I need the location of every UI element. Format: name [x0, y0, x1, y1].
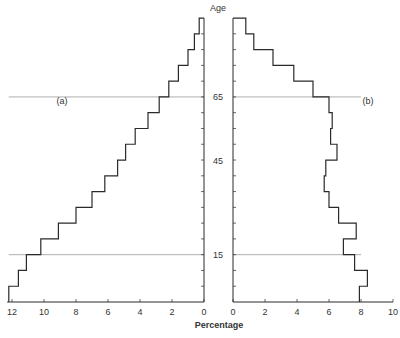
population-pyramid-chart: 121086420 0246810 Age 154565 (a) (b) Per…	[0, 0, 400, 338]
x-tick-label: 0	[201, 307, 206, 317]
age-tick-labels: 154565	[213, 92, 223, 260]
x-tick-label: 8	[358, 307, 363, 317]
series-b-path	[233, 18, 367, 302]
x-tick-label: 2	[262, 307, 267, 317]
panel-a-label: (a)	[57, 96, 68, 106]
x-tick-label: 4	[137, 307, 142, 317]
x-tick-label: 10	[39, 307, 49, 317]
right-panel-axes: 0246810	[230, 18, 398, 317]
chart-canvas: 121086420 0246810 Age 154565 (a) (b) Per…	[0, 0, 400, 338]
age-tick-label: 65	[213, 92, 223, 102]
left-panel-axes: 121086420	[7, 18, 207, 317]
x-tick-label: 12	[7, 307, 17, 317]
series-b-step-line	[233, 18, 367, 302]
series-a-path	[9, 18, 204, 302]
x-axis-label: Percentage	[195, 320, 244, 330]
reference-lines	[9, 97, 361, 255]
x-tick-label: 10	[388, 307, 398, 317]
age-tick-label: 45	[213, 156, 223, 166]
x-tick-label: 8	[73, 307, 78, 317]
x-tick-label: 2	[169, 307, 174, 317]
x-tick-label: 4	[294, 307, 299, 317]
x-tick-label: 6	[326, 307, 331, 317]
age-tick-label: 15	[213, 250, 223, 260]
series-a-step-line	[9, 18, 204, 302]
age-axis-label: Age	[210, 3, 226, 13]
x-tick-label: 0	[230, 307, 235, 317]
panel-b-label: (b)	[363, 96, 374, 106]
x-tick-label: 6	[105, 307, 110, 317]
